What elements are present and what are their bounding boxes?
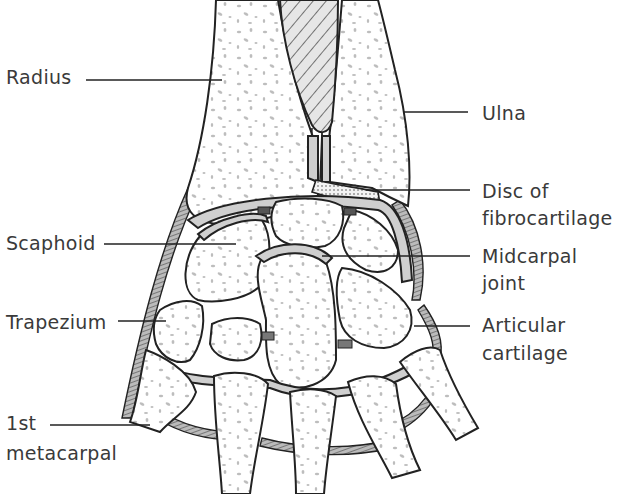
label-midcarpal-line2: joint xyxy=(482,270,525,297)
label-ulna: Ulna xyxy=(482,100,526,127)
second-metacarpal xyxy=(214,373,268,494)
third-metacarpal xyxy=(290,389,336,494)
label-disc-line1: Disc of xyxy=(482,178,549,205)
lunate-bone xyxy=(272,199,344,248)
label-articular-line1: Articular xyxy=(482,312,565,339)
label-midcarpal-line1: Midcarpal xyxy=(482,243,577,270)
trapezoid-bone xyxy=(210,318,261,360)
label-articular-line2: cartilage xyxy=(482,340,568,367)
trapezium-bone xyxy=(154,301,203,362)
scaphoid-bone xyxy=(185,218,269,301)
label-radius: Radius xyxy=(6,64,72,91)
label-disc-line2: fibrocartilage xyxy=(482,205,613,232)
label-metacarpal-line1: 1st xyxy=(6,410,36,437)
fifth-metacarpal xyxy=(400,348,478,440)
hamate-bone xyxy=(337,268,412,348)
label-scaphoid: Scaphoid xyxy=(6,230,96,257)
capitate-bone xyxy=(258,249,336,387)
label-metacarpal-line2: metacarpal xyxy=(6,440,117,467)
carpal-bones xyxy=(154,199,412,388)
ulna-bone xyxy=(327,0,409,206)
label-trapezium: Trapezium xyxy=(6,309,107,336)
fourth-metacarpal xyxy=(348,376,420,478)
